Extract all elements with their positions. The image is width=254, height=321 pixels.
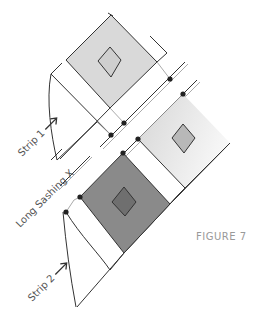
strip-1-mid-seam (97, 122, 111, 135)
figure-caption: FIGURE 7 (196, 231, 247, 242)
top-block-seam-right (157, 62, 170, 79)
seam-dot (167, 76, 172, 81)
seam-dot (77, 194, 82, 199)
strip-2-mid-edge (110, 253, 124, 270)
strip-2-label: Strip 2 (26, 272, 57, 303)
seam-dot (135, 136, 140, 141)
strip-2-corner-seam (66, 197, 80, 212)
sashing-label-group: Long Sashing X (14, 167, 76, 229)
seam-dot (120, 150, 125, 155)
strip-1-diagonal (60, 108, 110, 159)
strip-1-label-group: Strip 1 (16, 114, 61, 159)
strip-2-group (63, 153, 170, 307)
seam-dot (108, 132, 113, 137)
seam-dot (121, 120, 126, 125)
seam-dot (63, 209, 68, 214)
strip-2-arrow-icon (53, 260, 70, 277)
seam-dot (180, 91, 185, 96)
sashing-label: Long Sashing X (14, 167, 76, 229)
quilt-diagram: Strip 1 Long Sashing X Strip 2 FIGURE 7 (0, 0, 254, 321)
top-block-seam-bottom (110, 108, 124, 123)
strip-2-label-group: Strip 2 (26, 259, 71, 304)
strip-1-label: Strip 1 (16, 127, 47, 158)
strip-2-left-border (63, 212, 76, 307)
strip-1-left-border (49, 63, 62, 160)
